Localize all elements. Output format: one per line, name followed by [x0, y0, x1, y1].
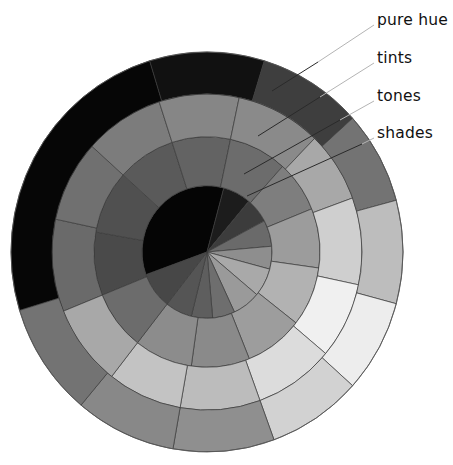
wheel-sector [150, 52, 265, 101]
label-tones: tones [377, 89, 421, 105]
label-tints: tints [377, 51, 412, 67]
label-pure-hue: pure hue [377, 13, 448, 29]
leader-line-tints [320, 63, 374, 97]
ring-shades [142, 186, 272, 319]
leader-line-pure-hue [318, 25, 374, 62]
color-wheel [0, 0, 453, 465]
wheel-sector [313, 198, 362, 285]
wheel-sector [357, 200, 403, 303]
wheel-rings [11, 52, 403, 452]
wheel-sector [52, 219, 102, 311]
wheel-sector [180, 360, 260, 410]
label-shades: shades [377, 126, 433, 142]
wheel-sector [159, 94, 239, 142]
